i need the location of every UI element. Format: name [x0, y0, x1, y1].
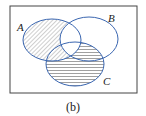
label-c: C [103, 75, 111, 87]
figure-caption: (b) [0, 100, 146, 115]
venn-diagram: A B C [0, 0, 146, 116]
label-b: B [108, 12, 115, 24]
label-a: A [16, 21, 24, 33]
